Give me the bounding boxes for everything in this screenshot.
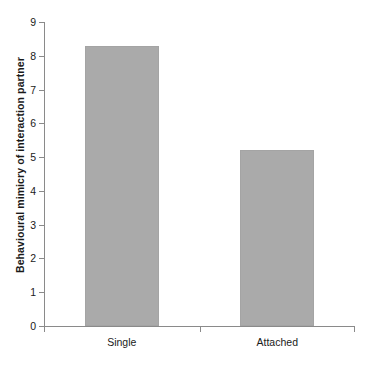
bar: [85, 46, 159, 326]
y-tick-mark: [39, 22, 44, 23]
y-tick-label: 1: [30, 286, 36, 298]
y-tick-mark: [39, 292, 44, 293]
y-axis-title: Behavioural mimicry of interaction partn…: [11, 0, 29, 330]
y-tick-mark: [39, 56, 44, 57]
x-tick-mark: [200, 326, 201, 332]
y-tick-label: 7: [30, 84, 36, 96]
plot-area: 0123456789 SingleAttached: [44, 22, 355, 326]
y-tick-mark: [39, 157, 44, 158]
y-tick-label: 3: [30, 219, 36, 231]
x-tick-mark: [354, 326, 355, 332]
y-tick-mark: [39, 258, 44, 259]
y-tick-label: 5: [30, 151, 36, 163]
y-axis-line: [44, 22, 45, 326]
y-tick-label: 0: [30, 320, 36, 332]
y-tick-mark: [39, 191, 44, 192]
x-tick-mark: [44, 326, 45, 332]
y-tick-mark: [39, 90, 44, 91]
y-tick-label: 6: [30, 117, 36, 129]
y-tick-mark: [39, 225, 44, 226]
x-category-label: Single: [107, 336, 136, 348]
y-tick-label: 2: [30, 252, 36, 264]
y-tick-label: 4: [30, 185, 36, 197]
y-tick-label: 8: [30, 50, 36, 62]
y-tick-mark: [39, 123, 44, 124]
bar-chart: Behavioural mimicry of interaction partn…: [0, 0, 366, 365]
bar: [240, 150, 314, 326]
x-category-label: Attached: [257, 336, 298, 348]
y-tick-label: 9: [30, 16, 36, 28]
